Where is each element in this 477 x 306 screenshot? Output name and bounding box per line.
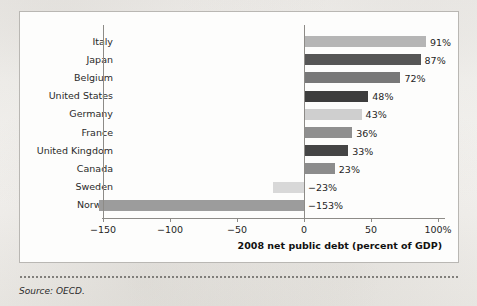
bar [304, 54, 421, 65]
bar [304, 72, 400, 83]
category-label: Belgium [74, 73, 113, 83]
bar [304, 109, 362, 120]
x-axis-title: 2008 net public debt (percent of GDP) [238, 240, 442, 251]
source-note: Source: OECD. [19, 286, 85, 296]
bar [273, 182, 304, 193]
bar [304, 145, 348, 156]
x-axis-tick-label: −100 [157, 224, 183, 235]
category-label: Canada [77, 164, 113, 174]
bar-value-label: 91% [430, 37, 451, 48]
category-label: Sweden [75, 182, 113, 192]
bar-value-label: 72% [404, 73, 425, 84]
bar [304, 163, 335, 174]
axis-line-left [103, 25, 104, 219]
cropped-caption-sliver [0, 0, 477, 9]
chart-frame: Italy91%Japan87%Belgium72%United States4… [19, 11, 459, 263]
plot-area: Italy91%Japan87%Belgium72%United States4… [20, 12, 458, 262]
bar-value-label: 33% [352, 146, 373, 157]
bar-value-label: 48% [372, 91, 393, 102]
bar-value-label: 36% [356, 128, 377, 139]
category-label: Germany [69, 109, 113, 119]
x-axis-tick-label: −150 [90, 224, 116, 235]
x-axis-tick-label: −50 [227, 224, 247, 235]
category-label: France [81, 128, 113, 138]
bar-value-label: 23% [339, 164, 360, 175]
bar-value-label: 87% [425, 55, 446, 66]
zero-line [304, 25, 305, 219]
bar-value-label: 43% [366, 109, 387, 120]
footer-divider [19, 276, 459, 278]
category-label: Japan [87, 55, 114, 65]
bar-value-label: −23% [308, 182, 337, 193]
x-axis-tick-label: 50 [365, 224, 377, 235]
figure-page: Italy91%Japan87%Belgium72%United States4… [0, 0, 477, 306]
x-axis-tick-label: 100% [424, 224, 451, 235]
x-axis-tick-label: 0 [301, 224, 307, 235]
bar [304, 127, 352, 138]
bar [99, 200, 304, 211]
bar [304, 91, 368, 102]
category-label: United Kingdom [37, 146, 113, 156]
x-axis-line [102, 218, 445, 219]
bar [304, 36, 426, 47]
bar-value-label: −153% [308, 200, 343, 211]
